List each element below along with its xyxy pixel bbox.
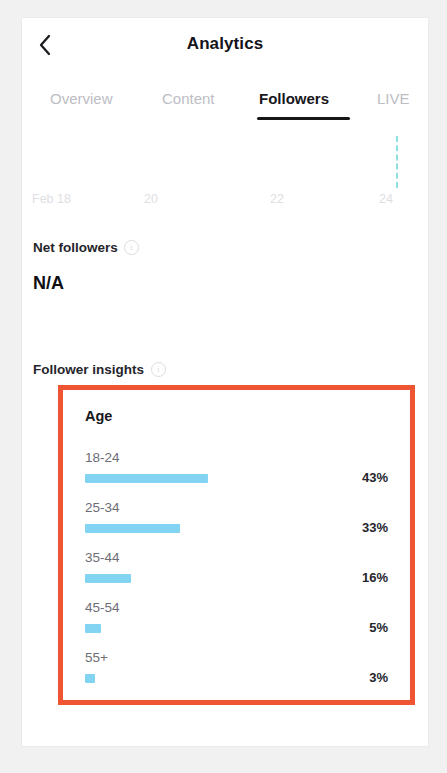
age-card-content: Age 18-24 43% 25-34 33% 35-44 <box>63 390 410 700</box>
age-bar-track <box>85 674 371 683</box>
age-bucket-percent: 43% <box>362 470 388 485</box>
age-bucket-label: 55+ <box>85 650 388 666</box>
age-bar <box>85 524 180 533</box>
follower-insights-label-row: Follower insights i <box>33 362 166 377</box>
age-insight-card[interactable]: Age 18-24 43% 25-34 33% 35-44 <box>58 385 415 705</box>
age-row: 25-34 33% <box>85 500 388 550</box>
age-bucket-percent: 33% <box>362 520 388 535</box>
age-row: 55+ 3% <box>85 650 388 700</box>
tab-followers[interactable]: Followers <box>259 90 329 107</box>
age-bucket-percent: 3% <box>369 670 388 685</box>
age-card-title: Age <box>85 408 388 424</box>
age-bar-track <box>85 474 371 483</box>
age-bucket-label: 45-54 <box>85 600 388 616</box>
x-axis-tick-3: 24 <box>379 192 393 206</box>
analytics-screen: Analytics Overview Content Followers LIV… <box>22 18 428 746</box>
x-axis-tick-1: 20 <box>144 192 158 206</box>
age-bar <box>85 474 208 483</box>
screen-header: Analytics <box>22 18 428 70</box>
net-followers-label-row: Net followers i <box>33 240 333 255</box>
tab-content[interactable]: Content <box>162 90 215 107</box>
x-axis-tick-2: 22 <box>270 192 284 206</box>
age-bucket-label: 35-44 <box>85 550 388 566</box>
follower-insights-info-icon[interactable]: i <box>151 362 166 377</box>
age-row: 45-54 5% <box>85 600 388 650</box>
net-followers-info-icon[interactable]: i <box>124 240 139 255</box>
age-bucket-percent: 5% <box>369 620 388 635</box>
tab-live[interactable]: LIVE <box>377 90 410 107</box>
age-row: 35-44 16% <box>85 550 388 600</box>
age-bar <box>85 674 95 683</box>
age-bucket-label: 18-24 <box>85 450 388 466</box>
x-axis-tick-0: Feb 18 <box>32 192 71 206</box>
age-bar-track <box>85 524 371 533</box>
tab-overview[interactable]: Overview <box>50 90 113 107</box>
age-bar <box>85 624 101 633</box>
age-bar-track <box>85 574 371 583</box>
age-bucket-percent: 16% <box>362 570 388 585</box>
age-bar <box>85 574 131 583</box>
page-title: Analytics <box>22 34 428 54</box>
follower-insights-label: Follower insights <box>33 362 144 377</box>
age-bar-track <box>85 624 371 633</box>
net-followers-block: Net followers i N/A <box>33 240 333 294</box>
net-followers-label: Net followers <box>33 240 118 255</box>
chart-today-marker <box>396 136 398 188</box>
net-followers-value: N/A <box>33 273 333 294</box>
screen-background: Analytics Overview Content Followers LIV… <box>0 0 447 773</box>
age-row: 18-24 43% <box>85 450 388 500</box>
followers-trend-chart: Feb 18 20 22 24 <box>22 114 428 218</box>
age-bucket-label: 25-34 <box>85 500 388 516</box>
